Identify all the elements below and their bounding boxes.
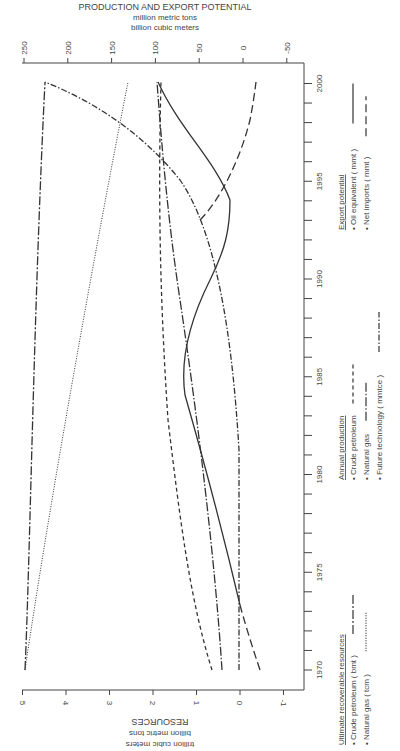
bottom-tick-label: 3 [105,701,114,706]
bottom-tick-label: 4 [61,701,70,706]
legend-item: • Natural gas ( tcm ) [362,674,371,745]
legend-group-title: Export potential [337,174,346,230]
legend-item: • Net imports ( mmt ) [362,156,371,230]
top-tick-label: 50 [195,43,204,52]
top-tick-label: 0 [239,45,248,50]
series-lines [25,82,260,670]
bottom-tick-label: 0 [235,701,244,706]
year-tick-label: 1970 [315,661,324,679]
bottom-tick-label: 1 [192,701,201,706]
top-tick-label: -50 [283,42,292,54]
series-line-crude-petroleum-bmt- [25,82,45,670]
series-line-future-technology-mmtce- [45,82,239,670]
year-tick-label: 1990 [315,270,324,288]
energy-potential-chart: PRODUCTION AND EXPORT POTENTIAL million … [0,0,400,751]
bottom-axis-unit-2: trillion cubic meters [126,740,194,749]
year-axis: 1970197519801985199019952000 [304,74,324,679]
top-tick-label: 100 [151,41,160,55]
top-tick-label: 150 [108,41,117,55]
bottom-tick-label: -1 [279,699,288,707]
legend-item: • Crude petroleum ( bmt ) [349,655,358,745]
top-tick-label: 200 [64,41,73,55]
top-axis-unit-2: billion cubic meters [131,23,199,32]
top-axis: 250200150100500-50 [20,41,292,63]
series-line-net-imports-mmt- [200,82,260,670]
year-tick-label: 1985 [315,367,324,385]
year-tick-label: 1995 [315,172,324,190]
series-line-oil-equivalent-mmt- [158,82,240,605]
top-tick-label: 250 [20,41,29,55]
bottom-tick-label: 2 [148,701,157,706]
bottom-axis-label: trillion cubic meters billion metric ton… [126,717,194,749]
legend: Ultimate recoverable resources• Crude pe… [337,83,384,745]
legend-item: • Future technology ( mmtce ) [375,375,384,480]
bottom-tick-label: 5 [18,701,27,706]
bottom-axis-title: RESOURCES [131,717,188,727]
series-line-natural-gas [157,82,222,670]
series-line-crude-petroleum [160,82,212,670]
legend-item: • Crude petroleum [349,415,358,480]
legend-group-title: Ultimate recoverable resources [337,634,346,745]
top-axis-unit-1: million metric tons [133,13,197,22]
legend-item: • Natural gas [362,434,371,480]
bottom-axis-unit-1: billion metric tons [129,729,191,738]
bottom-axis: 543210-1 [18,690,288,707]
year-tick-label: 2000 [315,74,324,92]
legend-group-title: Annual production [337,416,346,481]
legend-item: • Oil equivalent ( mmt ) [349,149,358,230]
top-axis-title: PRODUCTION AND EXPORT POTENTIAL [78,2,251,12]
year-tick-label: 1975 [315,563,324,581]
year-tick-label: 1980 [315,465,324,483]
